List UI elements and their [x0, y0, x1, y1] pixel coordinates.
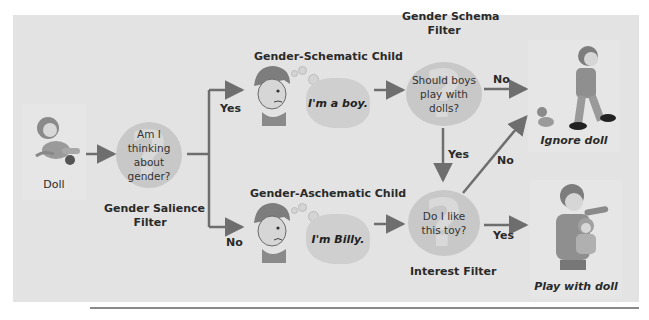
salience-question-line-1: Am I thinking	[116, 127, 182, 155]
thought-bubble-dot	[298, 66, 307, 75]
doll-label: Doll	[22, 178, 86, 192]
schematic-thought-cloud: I'm a boy.	[306, 78, 370, 128]
play-with-doll-outcome: Play with doll	[530, 180, 622, 298]
gender-salience-filter: ? Am I thinking about gender?	[116, 122, 182, 188]
interest-filter: ? Do I like this toy?	[408, 190, 480, 256]
doll-box: Doll	[22, 104, 86, 200]
ignore-doll-label: Ignore doll	[528, 134, 620, 148]
boy-walking-away-icon	[528, 40, 620, 132]
schematic-boy-face-icon	[250, 64, 290, 126]
gender-schema-filter: ? Should boys play with dolls?	[406, 62, 482, 126]
interest-filter-caption: Interest Filter	[410, 265, 480, 279]
schema-no-label: No	[493, 73, 510, 87]
thought-bubble-dot	[291, 70, 298, 77]
play-with-doll-label: Play with doll	[526, 280, 626, 294]
branch-yes-label: Yes	[220, 102, 241, 116]
doll-icon	[22, 104, 86, 174]
thought-bubble-dot	[298, 203, 307, 212]
aschematic-boy-face-icon	[250, 201, 290, 263]
aschematic-thought-cloud: I'm Billy.	[306, 214, 370, 264]
interest-question-line-1: Do I like	[422, 209, 467, 223]
branch-no-label: No	[226, 236, 243, 250]
schematic-child-title: Gender-Schematic Child	[254, 50, 403, 64]
salience-filter-caption: Gender Salience Filter	[104, 202, 196, 230]
schema-filter-caption: Gender Schema Filter	[402, 10, 486, 38]
aschematic-child-title: Gender-Aschematic Child	[250, 187, 406, 201]
interest-yes-label: Yes	[493, 229, 514, 243]
ignore-doll-outcome: Ignore doll	[528, 40, 620, 152]
thought-bubble-dot	[291, 207, 298, 214]
schema-question-line-2: play with dolls?	[406, 87, 482, 115]
schema-yes-label: Yes	[448, 148, 469, 162]
boy-holding-doll-icon	[530, 180, 622, 276]
schema-question-line-1: Should boys	[406, 73, 482, 87]
salience-question-line-2: about gender?	[116, 155, 182, 183]
interest-question-line-2: this toy?	[422, 223, 467, 237]
interest-no-label: No	[497, 154, 514, 168]
